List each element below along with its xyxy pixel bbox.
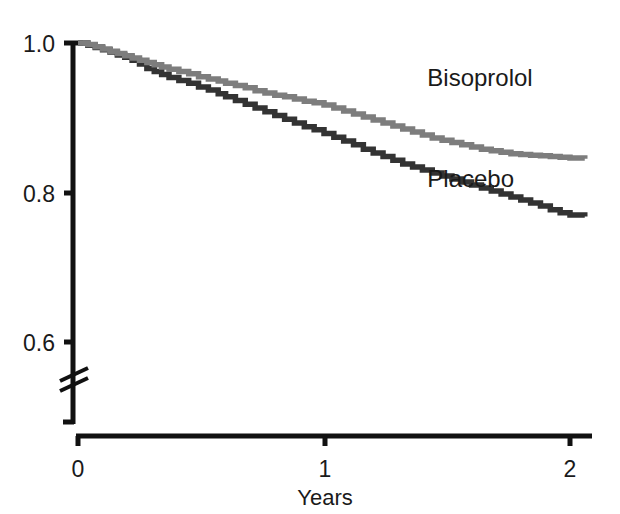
km-plot-svg: 1.0 0.8 0.6 0 1 2 Years Bisoprolol Place… [0, 0, 620, 514]
curve-bisoprolol [78, 43, 585, 159]
x-tick-label-0: 0 [72, 456, 85, 482]
y-tick-label-0.8: 0.8 [23, 181, 55, 207]
series-label-placebo: Placebo [427, 165, 514, 192]
y-tick-label-1.0: 1.0 [23, 31, 55, 57]
x-axis-title: Years [297, 485, 352, 510]
survival-chart: 1.0 0.8 0.6 0 1 2 Years Bisoprolol Place… [0, 0, 620, 514]
x-tick-label-2: 2 [564, 456, 577, 482]
x-tick-label-1: 1 [319, 456, 332, 482]
y-tick-label-0.6: 0.6 [23, 330, 55, 356]
series-label-bisoprolol: Bisoprolol [427, 64, 532, 91]
